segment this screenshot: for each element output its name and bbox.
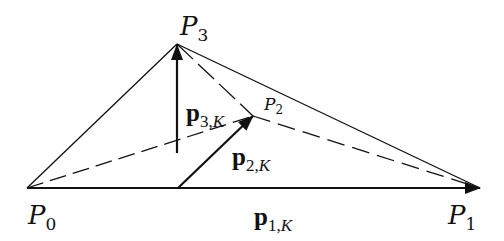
label-vector-p2k: p2,K	[232, 144, 270, 174]
edge-p0-p3	[27, 44, 177, 188]
label-p2: P2	[264, 96, 283, 116]
tetrahedron-diagram	[0, 0, 504, 241]
label-p0: P0	[28, 202, 56, 233]
label-p3: P3	[180, 13, 208, 44]
edge-p2-p1-dashed	[253, 116, 480, 188]
label-vector-p3k: p3,K	[186, 100, 224, 130]
label-vector-p1k: p1,K	[254, 204, 292, 234]
label-p1: P1	[448, 202, 476, 233]
